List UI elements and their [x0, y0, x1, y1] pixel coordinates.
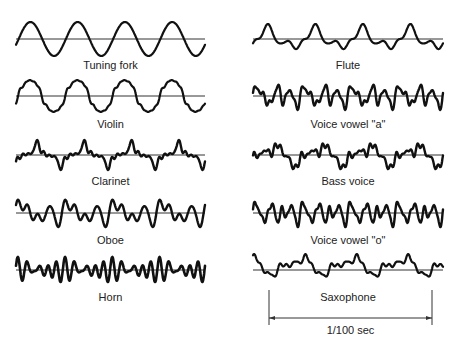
waveform-label: Horn	[99, 291, 123, 303]
waveform-trace	[253, 202, 443, 227]
waveform-trace	[253, 254, 443, 277]
waveform-label: Tuning fork	[83, 59, 138, 71]
arrowhead-left-icon	[269, 316, 275, 320]
waveform-label: Oboe	[97, 234, 124, 246]
waveform-violin: Violin	[16, 80, 205, 130]
waveform-label: Bass voice	[321, 175, 374, 187]
waveform-trace	[253, 24, 443, 49]
waveform-oboe: Oboe	[16, 200, 205, 246]
waveform-saxophone: Saxophone	[253, 254, 443, 303]
time-scale-label: 1/100 sec	[327, 324, 375, 336]
waveform-horn: Horn	[16, 257, 205, 303]
waveform-flute: Flute	[253, 24, 443, 71]
waveform-bass-voice: Bass voice	[253, 144, 443, 188]
waveform-label: Flute	[336, 59, 360, 71]
waveform-voice-vowel-o: Voice vowel "o"	[253, 202, 443, 246]
waveform-label: Violin	[97, 118, 124, 130]
waveform-tuning-fork: Tuning fork	[16, 22, 205, 71]
waveform-label: Voice vowel "a"	[310, 118, 385, 130]
waveform-clarinet: Clarinet	[16, 140, 205, 187]
waveform-comparison-diagram: Tuning forkViolinClarinetOboeHornFluteVo…	[0, 0, 455, 351]
waveform-label: Clarinet	[92, 175, 130, 187]
waveform-trace	[253, 85, 443, 110]
waveform-label: Voice vowel "o"	[310, 234, 385, 246]
arrowhead-right-icon	[426, 316, 432, 320]
waveform-label: Saxophone	[320, 291, 376, 303]
waveform-voice-vowel-a: Voice vowel "a"	[253, 85, 443, 130]
waveforms-group: Tuning forkViolinClarinetOboeHornFluteVo…	[16, 22, 443, 303]
waveform-trace	[253, 144, 443, 170]
